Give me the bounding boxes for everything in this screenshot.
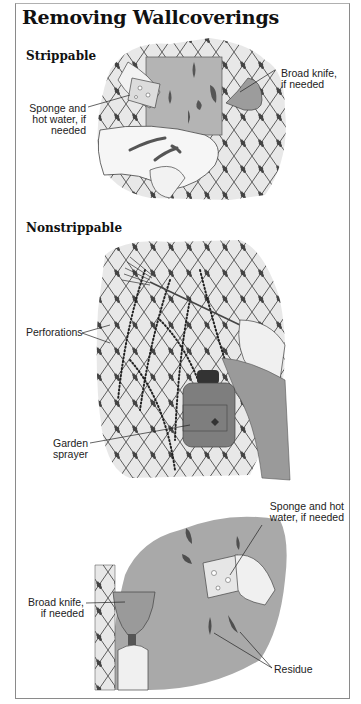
residue-illustration [86, 517, 287, 690]
wallpaper-edge [95, 565, 115, 690]
label-sponge-hot-water-2: Sponge and hot water, if needed [260, 501, 344, 523]
page-title: Removing Wallcoverings [22, 6, 279, 28]
label-perforations: Perforations [26, 327, 83, 338]
label-sponge-hot-water: Sponge and hot water, if needed [24, 103, 86, 136]
label-broad-knife-2: Broad knife, if needed [24, 597, 84, 619]
nonstrippable-illustration [82, 240, 290, 480]
strippable-illustration [88, 38, 286, 200]
section-heading-nonstrippable: Nonstrippable [26, 221, 122, 235]
label-residue: Residue [274, 664, 313, 675]
hand-knife [118, 645, 148, 690]
label-broad-knife: Broad knife, if needed [281, 68, 337, 90]
label-garden-sprayer: Garden sprayer [53, 438, 88, 460]
section-heading-strippable: Strippable [26, 49, 96, 63]
sprayer-cap [197, 370, 219, 384]
